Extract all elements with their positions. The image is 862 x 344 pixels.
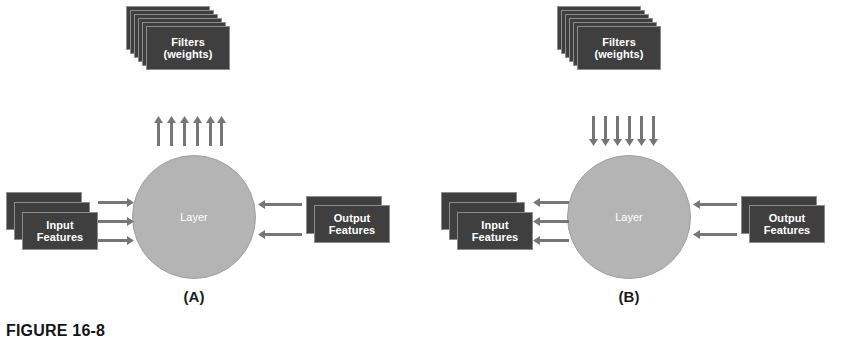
input-feature-card-front: Input Features — [22, 212, 98, 250]
output-features-stack-a: Output Features — [306, 196, 394, 248]
panel-a: Filters (weights) Layer — [0, 0, 431, 320]
filters-stack-a: Filters (weights) — [126, 6, 230, 72]
input-features-stack-a: Input Features — [6, 192, 98, 250]
layer-label: Layer — [615, 211, 643, 223]
output-label-line2: Features — [329, 224, 376, 236]
input-label-line2: Features — [37, 231, 84, 243]
filter-card-front: Filters (weights) — [146, 26, 230, 70]
filters-stack-b: Filters (weights) — [557, 6, 661, 72]
filter-card-front: Filters (weights) — [577, 26, 661, 70]
input-label-line1: Input — [481, 219, 508, 231]
layer-label: Layer — [180, 211, 208, 223]
panel-b: Filters (weights) Layer — [431, 0, 862, 320]
input-label-line2: Features — [472, 231, 519, 243]
input-feature-card-front: Input Features — [457, 212, 533, 250]
filters-label-line2: (weights) — [594, 48, 643, 60]
panel-letter-a: (A) — [164, 288, 224, 305]
output-label-line1: Output — [334, 212, 371, 224]
output-feature-card-front: Output Features — [749, 205, 825, 243]
output-arrows-left-a — [258, 200, 302, 244]
filters-label-line2: (weights) — [163, 48, 212, 60]
output-arrows-left-b — [693, 200, 737, 244]
input-features-stack-b: Input Features — [441, 192, 533, 250]
layer-circle-b: Layer — [567, 155, 691, 279]
panel-letter-b: (B) — [599, 288, 659, 305]
output-label-line2: Features — [764, 224, 811, 236]
filters-arrows-up-a — [154, 116, 226, 146]
output-label-line1: Output — [769, 212, 806, 224]
output-feature-card-front: Output Features — [314, 205, 390, 243]
input-label-line1: Input — [46, 219, 73, 231]
input-arrows-left-b — [533, 198, 569, 250]
figure-caption: FIGURE 16-8 — [6, 322, 105, 340]
output-features-stack-b: Output Features — [741, 196, 829, 248]
filters-label-line1: Filters — [171, 36, 205, 48]
filters-label-line1: Filters — [602, 36, 636, 48]
figure-16-8: Filters (weights) Layer — [0, 0, 862, 344]
layer-circle-a: Layer — [132, 155, 256, 279]
filters-arrows-down-b — [589, 116, 661, 146]
input-arrows-right-a — [98, 198, 134, 250]
